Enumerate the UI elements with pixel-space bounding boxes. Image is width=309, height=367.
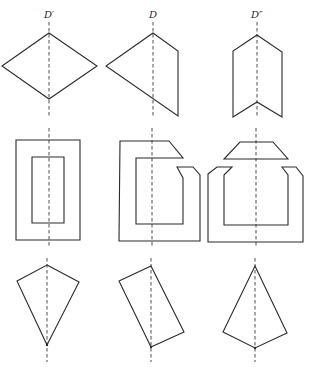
split-frame-shape [119, 141, 200, 241]
trapezoid-cap-shape [224, 142, 288, 159]
label-d-double-prime: D″ [250, 9, 263, 20]
open-u-frame-shape [208, 167, 303, 242]
vertex-dot [46, 344, 48, 346]
vertex-dot [150, 346, 152, 348]
diamond-shape [2, 33, 97, 99]
tilted-rectangle-shape [119, 266, 184, 347]
symmetry-diagram: D′ D D″ [0, 0, 309, 367]
frame-outer-shape [16, 140, 80, 240]
label-d-prime: D′ [43, 9, 55, 20]
kite-shape [17, 265, 79, 345]
label-d: D [148, 9, 157, 20]
frame-inner-shape [32, 157, 64, 223]
vertex-dot [254, 347, 256, 349]
chevron-hexagon-shape [233, 35, 282, 117]
half-diamond-pentagon-shape [106, 33, 178, 116]
